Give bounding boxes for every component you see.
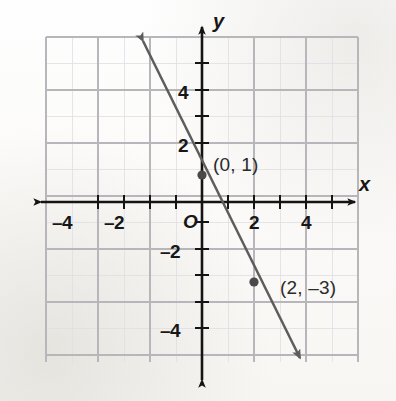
point-label-2-neg3: (2, –3) xyxy=(280,278,336,297)
origin-label: O xyxy=(183,212,198,231)
y-tick-label--4: –4 xyxy=(160,321,180,340)
x-axis-name: x xyxy=(359,174,370,194)
plotted-line xyxy=(143,41,300,358)
graph-canvas xyxy=(0,0,396,401)
data-point-0-1 xyxy=(197,170,206,179)
x-tick-label--2: –2 xyxy=(104,213,124,232)
x-tick-label--4: –4 xyxy=(52,213,72,232)
coordinate-plane-figure: –4 –2 2 4 4 2 –2 –4 O y x (0, 1) (2, –3) xyxy=(0,0,396,401)
y-tick-label-4: 4 xyxy=(178,83,188,102)
x-tick-label-4: 4 xyxy=(301,213,311,232)
y-axis-name: y xyxy=(213,11,224,31)
data-point-2-neg3 xyxy=(249,277,258,286)
x-tick-label-2: 2 xyxy=(249,213,259,232)
y-tick-label--2: –2 xyxy=(160,242,180,261)
y-tick-label-2: 2 xyxy=(178,136,188,155)
point-label-0-1: (0, 1) xyxy=(213,155,259,174)
